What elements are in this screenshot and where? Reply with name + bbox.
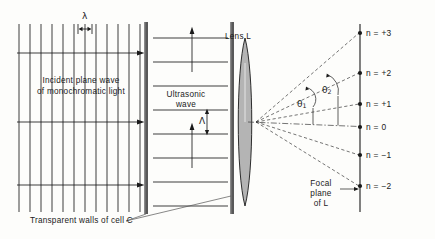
transparent-walls-label: Transparent walls of cell C bbox=[30, 216, 133, 226]
focal-plane-leader bbox=[340, 187, 359, 191]
order-label-plus3: n = +3 bbox=[366, 28, 392, 38]
cell-right-wall bbox=[230, 22, 234, 214]
order-label-plus2: n = +2 bbox=[366, 68, 392, 78]
diffracted-ray-order-plus3 bbox=[256, 33, 359, 122]
optical-axis-order-zero bbox=[248, 122, 359, 127]
cell-walls-leader-lines bbox=[126, 196, 231, 221]
order-label-minus2: n = −2 bbox=[366, 181, 392, 191]
angle-reference-lines bbox=[313, 96, 338, 126]
light-wavelength-label: λ bbox=[82, 11, 87, 21]
ultrasonic-wave-label-line2: wave bbox=[155, 100, 217, 110]
diffracted-ray-order-minus1 bbox=[256, 122, 359, 155]
incident-wave-label-line2: of monochromatic light bbox=[25, 87, 137, 97]
order-label-minus1: n = −1 bbox=[366, 150, 392, 160]
incident-light-rays bbox=[17, 50, 145, 187]
order-label-plus0: n = 0 bbox=[366, 122, 386, 132]
theta2-subscript: 2 bbox=[328, 88, 332, 95]
theta1-label: θ1 bbox=[297, 99, 307, 112]
order-label-plus1: n = +1 bbox=[366, 99, 392, 109]
theta1-subscript: 1 bbox=[303, 102, 307, 109]
focal-plane-label-line1: Focal bbox=[301, 179, 341, 189]
diffracted-ray-order-plus1 bbox=[256, 104, 359, 122]
sound-wavelength-arrow bbox=[205, 109, 209, 135]
lens-label: Lens L bbox=[225, 32, 251, 42]
incident-wave-label-line1: Incident plane wave bbox=[29, 76, 133, 86]
incident-wavefront-lines bbox=[19, 24, 140, 212]
acousto-optic-diffraction-figure: λ Incident plane wave of monochromatic l… bbox=[0, 0, 435, 239]
focal-plane-label-line3: of L bbox=[301, 199, 341, 209]
ultrasonic-wavefront-lines bbox=[153, 38, 228, 206]
cell-left-wall bbox=[144, 22, 148, 214]
focal-plane-label-line2: plane bbox=[301, 189, 341, 199]
diffracted-ray-order-plus2 bbox=[256, 73, 359, 122]
sound-wavelength-label: Λ bbox=[199, 116, 205, 126]
theta2-label: θ2 bbox=[322, 85, 332, 98]
ultrasonic-wave-label-line1: Ultrasonic bbox=[155, 90, 217, 100]
diffracted-ray-order-minus2 bbox=[256, 122, 359, 186]
diffracted-rays bbox=[256, 33, 359, 186]
theta1-arc bbox=[305, 87, 315, 107]
